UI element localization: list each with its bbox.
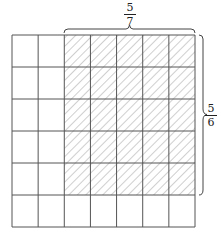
right-fraction-numerator: 5: [205, 103, 217, 114]
hatched-area: [64, 35, 195, 195]
shaded-region: [64, 35, 195, 195]
right-fraction-label: 5 6: [205, 103, 217, 128]
right-fraction-denominator: 6: [205, 117, 217, 128]
top-fraction-denominator: 7: [124, 16, 136, 27]
top-fraction-numerator: 5: [124, 2, 136, 13]
top-fraction-label: 5 7: [124, 2, 136, 27]
fraction-area-model: [0, 0, 221, 234]
